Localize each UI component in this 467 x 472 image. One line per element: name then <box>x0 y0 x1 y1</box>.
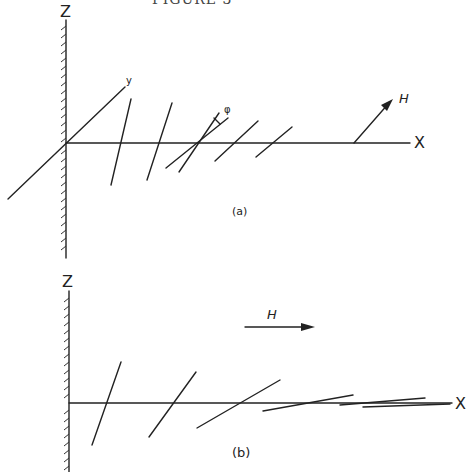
field-label-a: H <box>399 91 409 106</box>
angle-label-phi: φ <box>224 104 231 115</box>
panel-a <box>8 20 410 258</box>
diagram-canvas <box>0 0 467 472</box>
field-label-b: H <box>267 307 277 322</box>
wall-hatching-a <box>61 26 66 250</box>
wall-hatching-b <box>64 298 69 470</box>
panel-b <box>64 291 452 472</box>
caption-a: (a) <box>232 205 247 218</box>
spin-lines-a <box>111 99 292 185</box>
field-arrow-a <box>354 103 389 143</box>
arrowhead-b <box>301 323 315 331</box>
caption-b: (b) <box>232 445 250 460</box>
x-axis-label-b: X <box>455 394 466 413</box>
x-axis-label-a: X <box>414 133 425 152</box>
y-axis-label-a: y <box>126 75 132 86</box>
z-axis-label-a: Z <box>60 2 71 21</box>
z-axis-label-b: Z <box>62 272 73 291</box>
